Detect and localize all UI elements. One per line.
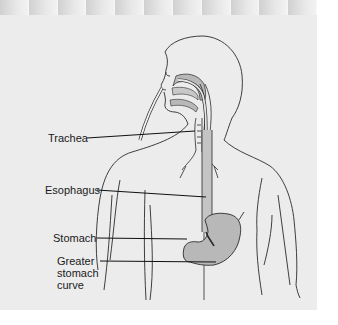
- diagram-canvas: Trachea Esophagus Stomach Greater stomac…: [0, 0, 338, 325]
- anatomy-illustration: [0, 0, 338, 325]
- label-greater-stomach-curve-line2: stomach: [57, 267, 99, 279]
- label-stomach: Stomach: [53, 232, 96, 244]
- stomach: [183, 213, 240, 265]
- label-greater-stomach-curve-line1: Greater: [57, 255, 94, 267]
- label-greater-stomach-curve-line3: curve: [57, 279, 84, 291]
- label-esophagus: Esophagus: [45, 184, 100, 196]
- label-trachea: Trachea: [48, 132, 88, 144]
